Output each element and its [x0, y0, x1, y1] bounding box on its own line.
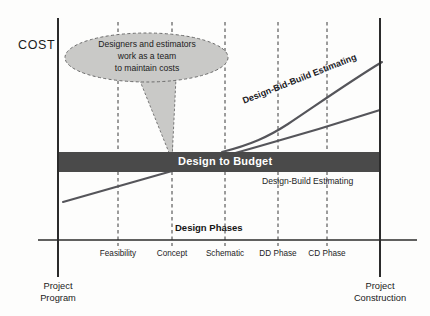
project-program-line-1: Project — [40, 280, 76, 292]
project-program-label: Project Program — [40, 280, 76, 305]
project-program-line-2: Program — [40, 292, 76, 304]
project-construction-line-1: Project — [354, 280, 406, 292]
design-to-budget-label: Design to Budget — [178, 155, 272, 168]
tick-label-schematic: Schematic — [206, 249, 244, 258]
callout-tail — [138, 76, 176, 160]
project-construction-line-2: Construction — [354, 292, 406, 304]
project-construction-label: Project Construction — [354, 280, 406, 305]
tick-label-dd-phase: DD Phase — [259, 249, 296, 258]
tick-label-concept: Concept — [157, 249, 188, 258]
callout-line-2: work as a team — [72, 50, 222, 62]
design-build-estimating-label: Design-Build Estimating — [262, 176, 353, 186]
x-axis-title: Design Phases — [175, 222, 243, 233]
tick-label-cd-phase: CD Phase — [308, 249, 345, 258]
callout-line-3: to maintain costs — [72, 62, 222, 74]
y-axis-title: COST — [18, 38, 55, 53]
tick-label-feasibility: Feasibility — [100, 249, 136, 258]
callout-line-1: Designers and estimators — [72, 38, 222, 50]
callout-text: Designers and estimators work as a team … — [72, 38, 222, 75]
cost-vs-design-phases-diagram: COST Designers and estimators work as a … — [0, 0, 430, 316]
